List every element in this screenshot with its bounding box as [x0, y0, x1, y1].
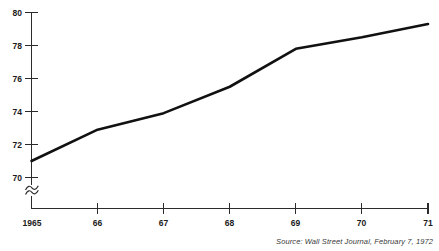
data-series-line: [32, 24, 429, 161]
chart-plot-area: 80 78 76 74 72 70 1965 66 67 68 69 70 71: [0, 0, 439, 251]
y-axis-break-icon: [26, 186, 39, 195]
y-axis-label-70: 70: [13, 173, 23, 183]
y-axis-label-80: 80: [13, 8, 23, 18]
y-axis-label-78: 78: [13, 41, 23, 51]
source-note: Source: Wall Street Journal, February 7,…: [276, 237, 433, 246]
x-axis-label-1971: 71: [423, 218, 433, 228]
x-axis-label-1969: 69: [291, 218, 301, 228]
y-axis-label-74: 74: [13, 107, 23, 117]
x-axis-label-1970: 70: [357, 218, 367, 228]
x-axis-label-1966: 66: [93, 218, 103, 228]
line-chart: 80 78 76 74 72 70 1965 66 67 68 69 70 71: [0, 0, 439, 251]
y-axis-labels: 80 78 76 74 72 70: [13, 8, 23, 183]
x-axis-label-1967: 67: [159, 218, 169, 228]
y-axis-label-72: 72: [13, 140, 23, 150]
x-axis-labels: 1965 66 67 68 69 70 71: [23, 218, 433, 228]
y-axis-label-76: 76: [13, 74, 23, 84]
x-axis-label-1965: 1965: [23, 218, 42, 228]
x-axis-label-1968: 68: [225, 218, 235, 228]
